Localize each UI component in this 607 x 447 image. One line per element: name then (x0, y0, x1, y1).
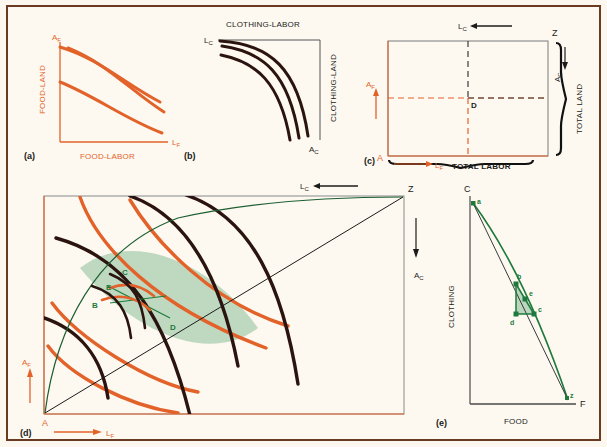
panel-a-isoquant-high (60, 47, 160, 102)
panel-d-z-corner: Z (408, 184, 414, 194)
panel-c-total-land-label: TOTAL LAND (575, 84, 584, 134)
panel-c-lc-arrow-head (470, 23, 477, 29)
panel-d-right-label: AC (414, 271, 424, 281)
panel-c-svg: LC Z AF AC TOTAL LAND LF TOTAL LABOR A D (360, 14, 600, 169)
figure-page: AF LF FOOD-LAND FOOD-LABOR (a) LC AC CLO… (0, 0, 607, 447)
panel-c: LC Z AF AC TOTAL LAND LF TOTAL LABOR A D (360, 14, 600, 169)
panel-d-af-arrow-head (27, 368, 33, 377)
panel-a-x-axis-label: FOOD-LABOR (80, 152, 135, 161)
panel-e-point-z: z (570, 392, 574, 399)
panel-d-letter: (d) (20, 428, 32, 438)
panel-d-point-b: B (92, 301, 98, 310)
panel-e-point-e-marker (523, 297, 528, 302)
panel-d-bottom-label: LF (106, 429, 114, 439)
panel-b-top-axis-label: CLOTHING-LABOR (226, 20, 300, 29)
panel-b-letter: (b) (184, 151, 196, 161)
panel-c-top-label: LC (458, 22, 467, 32)
panel-e-chord (473, 203, 568, 400)
panel-e-point-d: d (510, 319, 514, 326)
panel-d-point-c: C (122, 268, 128, 277)
panel-e-f-corner: F (580, 399, 586, 409)
panel-d-left-label: AF (22, 358, 31, 368)
panel-c-z-corner: Z (552, 28, 558, 38)
panel-c-total-labor-label: TOTAL LABOR (452, 162, 511, 171)
panel-d-lf-arrow-head (93, 429, 102, 435)
panel-d-lc-arrow-head (313, 183, 320, 189)
panel-b-svg: LC AC CLOTHING-LABOR CLOTHING-LAND (b) (180, 14, 370, 164)
panel-e-point-a-marker (471, 201, 476, 206)
panel-c-lf-arrow-head (426, 161, 433, 167)
panel-b-corner-label: LC (204, 36, 213, 46)
panel-a-y-axis-label: FOOD-LAND (38, 65, 47, 114)
panel-e-point-e: e (529, 290, 533, 297)
panel-d-point-d: D (170, 323, 176, 332)
panel-e-x-axis-label: FOOD (504, 417, 528, 426)
panel-d-ac-arrow-head (413, 249, 419, 258)
panel-b: LC AC CLOTHING-LABOR CLOTHING-LAND (b) (180, 14, 370, 164)
panel-a: AF LF FOOD-LAND FOOD-LABOR (a) (20, 14, 200, 164)
panel-d-point-e: E (106, 283, 112, 292)
panel-b-right-axis-label: CLOTHING-LAND (329, 54, 338, 122)
panel-b-bottom-label: AC (309, 145, 319, 155)
panel-e-letter: (e) (436, 418, 447, 428)
panel-e: a b e c d z C F CLOTHING FOOD (e) (428, 178, 600, 443)
panel-c-point-d: D (471, 101, 477, 110)
panel-d-top-label: LC (300, 182, 309, 192)
panel-a-origin-label: AF (52, 33, 61, 43)
panel-d-svg: B C E D LC Z AC AF LF A (d) (18, 178, 438, 443)
panel-d: B C E D LC Z AC AF LF A (d) (18, 178, 438, 443)
panel-e-point-b: b (517, 273, 521, 280)
panel-e-y-axis-label: CLOTHING (447, 285, 456, 328)
panel-e-point-a: a (477, 198, 481, 205)
panel-e-svg: a b e c d z C F CLOTHING FOOD (e) (428, 178, 600, 443)
panel-d-diagonal (45, 197, 403, 413)
panel-e-point-b-marker (514, 282, 519, 287)
panel-e-c-corner: C (464, 184, 471, 194)
panel-a-isoquant-low (60, 82, 162, 133)
panel-a-svg: AF LF FOOD-LAND FOOD-LABOR (a) (20, 14, 200, 164)
panel-c-bottom-label: LF (435, 161, 443, 171)
panel-a-isoquant-mid (68, 48, 164, 112)
panel-c-ac-arrow-head (562, 62, 568, 70)
panel-d-a-corner: A (42, 418, 48, 428)
panel-e-point-c: c (538, 306, 542, 313)
panel-c-a-corner: A (377, 153, 383, 163)
panel-b-isoquant-low (221, 55, 290, 140)
panel-e-point-z-marker (565, 396, 569, 400)
panel-c-letter: (c) (364, 156, 375, 166)
panel-e-point-c-marker (532, 312, 537, 317)
panel-e-point-d-marker (514, 312, 519, 317)
panel-c-left-label: AF (366, 80, 375, 90)
panel-a-letter: (a) (24, 151, 35, 161)
